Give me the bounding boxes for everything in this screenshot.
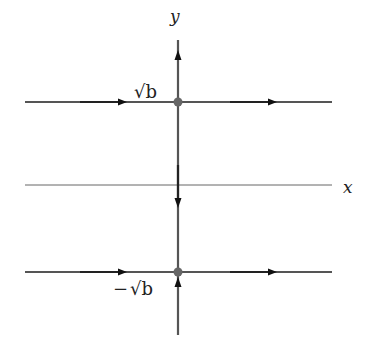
x-axis-label: x [343, 177, 353, 197]
minus-sign: − [113, 278, 128, 299]
arrow-down-icon [175, 198, 182, 208]
upper-equilibrium-label: √b [134, 81, 157, 102]
lower-equilibrium-label: − √b [113, 278, 153, 299]
arrow-up-icon [175, 50, 182, 60]
arrow-right-icon [118, 99, 127, 106]
sqrt-b-label: √b [134, 81, 157, 102]
lower-equilibrium-dot [174, 268, 183, 277]
arrow-right-icon [268, 99, 277, 106]
arrow-right-icon [268, 269, 277, 276]
y-axis-label: y [169, 6, 180, 26]
phase-portrait-diagram: x y √b − √b [0, 0, 367, 354]
neg-sqrt-b-label: √b [130, 278, 153, 299]
arrow-right-icon [118, 269, 127, 276]
upper-equilibrium-dot [174, 98, 183, 107]
arrow-up-icon [175, 277, 182, 287]
